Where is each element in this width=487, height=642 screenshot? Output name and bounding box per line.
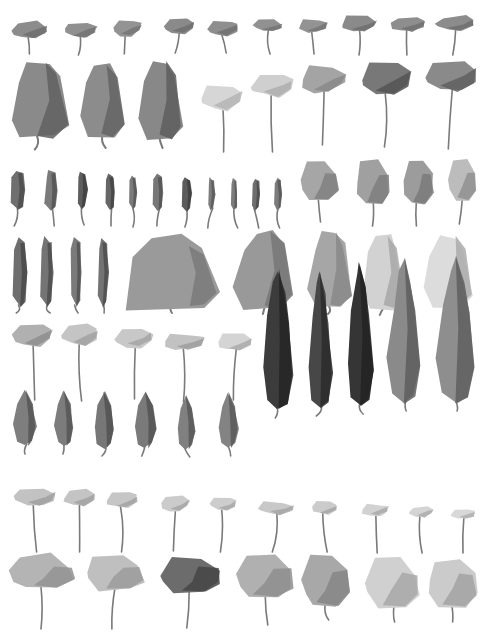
trunk-icon (373, 202, 374, 226)
tree-icon (95, 391, 114, 456)
tree-icon (153, 173, 164, 226)
tree-icon (114, 329, 153, 399)
trunk-icon (33, 344, 35, 400)
trunk-icon (419, 515, 422, 553)
tree-icon (218, 334, 251, 401)
trunk-icon (134, 345, 135, 399)
tree-icon (78, 172, 88, 225)
tree-icon (307, 231, 352, 314)
trunk-icon (183, 348, 184, 402)
trunk-icon (81, 207, 84, 225)
trunk-icon (133, 207, 135, 227)
row-2-mixed (12, 61, 476, 152)
trunk-icon (271, 94, 273, 152)
tree-icon (87, 555, 144, 629)
tree-icon (253, 19, 283, 54)
tree-icon (342, 16, 377, 55)
tree-icon (404, 161, 434, 226)
trunk-icon (277, 208, 280, 228)
trunk-icon (265, 595, 268, 625)
trunk-icon (275, 408, 277, 418)
row-5-flat-tall-trunk (12, 323, 252, 402)
trunk-icon (416, 202, 417, 226)
tree-icon (451, 509, 475, 553)
tree-icon (98, 238, 109, 313)
tree-icon (219, 391, 239, 456)
trunk-icon (120, 506, 123, 552)
row-1-small-flat-canopy (11, 15, 473, 55)
trunk-icon (254, 208, 259, 228)
trunk-icon (157, 208, 160, 226)
trunk-icon (272, 512, 277, 552)
tree-icon (425, 61, 476, 149)
tree-icon (129, 176, 137, 228)
tree-icon (178, 395, 196, 457)
tree-icon (61, 323, 98, 401)
trunk-icon (16, 305, 19, 313)
tree-icon (362, 504, 389, 553)
tree-icon (435, 15, 474, 55)
trunk-icon (173, 509, 175, 551)
tree-icon (236, 555, 294, 625)
tree-icon (161, 496, 190, 551)
tree-icon (391, 17, 426, 55)
trunk-icon (322, 91, 324, 145)
trunk-icon (208, 208, 213, 228)
trunk-icon (328, 306, 330, 314)
trunk-icon (14, 208, 17, 226)
tree-icon (182, 177, 192, 227)
trunk-icon (233, 348, 236, 400)
row-6-ovate (13, 390, 239, 457)
tree-icon (13, 390, 37, 454)
trunk-icon (175, 31, 179, 53)
tree-icon (165, 334, 204, 402)
row-3-narrow-and-round (11, 159, 476, 228)
tree-icon (135, 392, 157, 456)
tree-icon (11, 20, 47, 54)
tree-icon (429, 559, 478, 622)
trunk-icon (228, 446, 231, 456)
tree-icon (302, 65, 346, 145)
trunk-icon (376, 513, 377, 553)
trunk-icon (28, 36, 29, 54)
trunk-icon (78, 35, 80, 55)
tree-icon (107, 492, 138, 552)
tree-icon (80, 63, 125, 148)
tree-icon (231, 178, 238, 228)
tree-icon (14, 489, 56, 552)
trunk-icon (384, 93, 386, 147)
tree-icon (13, 237, 28, 313)
tree-icon (301, 555, 350, 620)
tree-icon (44, 170, 57, 226)
tree-icon (362, 63, 411, 148)
tree-icon (12, 324, 53, 400)
trunk-icon (268, 30, 271, 54)
row-8-round-large (9, 553, 478, 630)
trunk-icon (220, 508, 222, 552)
tree-icon (357, 159, 390, 226)
tree-icon (210, 498, 237, 552)
trunk-icon (459, 198, 462, 224)
tree-icon (40, 236, 53, 313)
row-7-small-light-flat (14, 489, 475, 553)
trunk-icon (312, 30, 315, 54)
trunk-icon (79, 343, 82, 401)
tree-icon (9, 553, 76, 630)
trunk-icon (325, 604, 329, 620)
tree-icon (251, 75, 294, 152)
trunk-icon (52, 208, 54, 226)
trunk-icon (185, 209, 187, 227)
tree-icon (409, 506, 434, 553)
tree-icon (126, 234, 220, 313)
tree-icon (12, 62, 69, 149)
trunk-icon (35, 136, 38, 150)
trunk-icon (33, 504, 36, 552)
trunk-icon (75, 305, 79, 313)
tree-icon (138, 61, 183, 148)
trunk-icon (323, 512, 328, 552)
tree-icon (299, 19, 328, 54)
tree-icon (274, 178, 282, 228)
tree-icon (207, 21, 237, 53)
tree-icon (312, 501, 337, 552)
trunk-icon (112, 587, 115, 629)
